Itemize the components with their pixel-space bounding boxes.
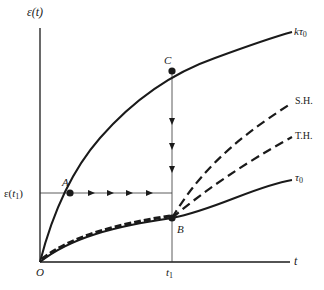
curve-k-tau0-label: kτ0: [294, 25, 307, 39]
curve-tau0: [40, 180, 292, 262]
arrow-down-icon: [169, 143, 175, 150]
arrow-right-icon: [107, 190, 114, 196]
strain-hardening-label: S.H.: [295, 95, 313, 106]
point-c: [168, 67, 175, 74]
arrow-right-icon: [88, 190, 95, 196]
arrow-right-icon: [146, 190, 153, 196]
point-a-label: A: [61, 176, 69, 188]
origin-label: O: [36, 266, 44, 278]
x-axis-label: t: [294, 254, 298, 268]
equivalent-dashed-curve: [42, 216, 170, 259]
point-a: [66, 189, 73, 196]
curve-strain-hardening: [172, 103, 292, 218]
time-hardening-label: T.H.: [295, 130, 313, 141]
x-tick-label: t1: [166, 266, 173, 280]
arrow-right-icon: [126, 190, 133, 196]
point-b-label: B: [177, 223, 184, 235]
curve-tau0-label: τ0: [295, 171, 303, 185]
point-b: [168, 214, 175, 221]
y-axis-label: ε(t): [27, 5, 43, 19]
y-tick-label: ε(t1): [4, 187, 23, 201]
curve-k-tau0: [40, 32, 292, 262]
creep-diagram: ε(t) t O ε(t1) t1 A B C kτ0 τ0 S.H. T.H.: [0, 0, 324, 290]
arrow-down-icon: [169, 118, 175, 125]
curve-time-hardening: [172, 137, 292, 218]
arrow-down-icon: [169, 166, 175, 173]
point-c-label: C: [164, 54, 172, 66]
